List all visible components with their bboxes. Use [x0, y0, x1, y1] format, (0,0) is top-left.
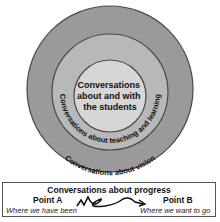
- concentric-circles-diagram: Conversations about and with the student…: [0, 0, 220, 182]
- point-b-caption: Where we want to go: [140, 206, 210, 215]
- inner-label: Conversations about and with the student…: [77, 80, 143, 112]
- point-a-caption: Where we have been: [6, 206, 77, 215]
- point-a-label: Point A: [33, 195, 62, 205]
- progress-box: Conversations about progress Point A Whe…: [2, 182, 216, 217]
- point-b-label: Point B: [163, 195, 193, 205]
